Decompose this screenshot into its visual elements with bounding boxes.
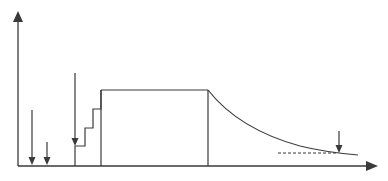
staircase-rise [75, 90, 101, 166]
decay-curve [208, 90, 358, 155]
profile [75, 90, 358, 166]
y-axis-arrowhead-icon [13, 11, 23, 22]
down-arrow-head-icon [72, 138, 79, 146]
down-arrow-head-icon [29, 157, 36, 165]
down-arrow-head-icon [44, 157, 51, 165]
diagram-canvas [0, 0, 388, 181]
axes [13, 11, 378, 171]
x-axis-arrowhead-icon [366, 161, 378, 171]
down-arrow-head-icon [336, 145, 343, 153]
diagram [0, 0, 388, 181]
